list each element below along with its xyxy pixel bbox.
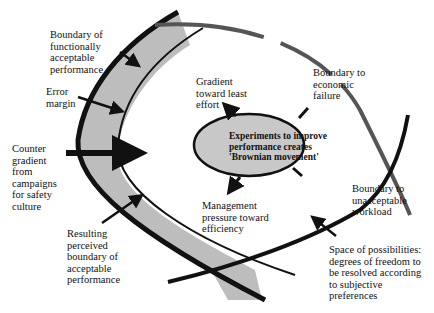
- arrow-ellipse-upper-right: [299, 108, 308, 118]
- label-counter-gradient: Counter gradient from campaigns for safe…: [12, 143, 57, 212]
- label-error-margin: Error margin: [46, 86, 76, 109]
- label-management-pressure: Management pressure toward efficiency: [202, 200, 269, 235]
- diagram-canvas: Boundary of functionally acceptable perf…: [0, 0, 434, 313]
- arrow-management-pressure: [232, 177, 240, 188]
- label-boundary-economic: Boundary to economic failure: [313, 67, 365, 102]
- label-boundary-functional: Boundary of functionally acceptable perf…: [50, 29, 103, 75]
- label-experiments: Experiments to improve performance creat…: [229, 131, 327, 163]
- label-boundary-workload: Boundary to unacceptable workload: [352, 183, 407, 218]
- label-gradient-least-effort: Gradient toward least effort: [196, 76, 247, 111]
- label-space-possibilities: Space of possibilities: degrees of freed…: [329, 244, 421, 302]
- label-resulting-boundary: Resulting perceived boundary of acceptab…: [67, 228, 120, 286]
- arrow-ellipse-lower-right: [293, 168, 302, 176]
